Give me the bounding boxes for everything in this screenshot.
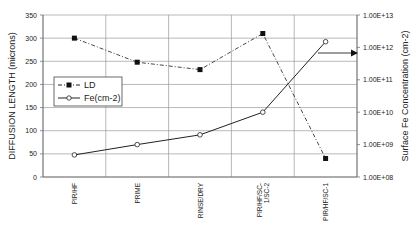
x-category-label-line: RINSE/DRY [197, 182, 204, 218]
y2-tick-label: 1.00E+13 [363, 12, 393, 19]
x-category-label-line: 1/SC-2 [263, 183, 270, 204]
x-category-label: RINSE/DRY [197, 182, 204, 218]
chart: 050100150200250300350 1.00E+081.00E+091.… [0, 0, 419, 234]
y2-tick-label: 1.00E+08 [363, 174, 393, 181]
y-axis-right-ticks: 1.00E+081.00E+091.00E+101.00E+111.00E+12… [357, 12, 393, 181]
y-axis-left-title: DIFFUSION LENGTH (microns) [7, 32, 17, 160]
series-ld-point [260, 31, 265, 36]
y2-tick-label: 1.00E+11 [363, 76, 393, 83]
legend: LD Fe(cm-2) [54, 77, 122, 106]
y-tick-label: 200 [25, 81, 37, 88]
x-category-label: PIR/HF/SC-1/SC-2 [256, 183, 271, 218]
legend-ld-label: LD [84, 80, 96, 90]
legend-fe-label: Fe(cm-2) [84, 93, 121, 103]
y-tick-label: 300 [25, 35, 37, 42]
series-ld-point [72, 36, 77, 41]
x-category-label-line: PIR/HF [71, 183, 78, 204]
x-category-label-line: PRIME [134, 182, 141, 203]
y-tick-label: 100 [25, 127, 37, 134]
series-fe-point [323, 39, 328, 44]
series-fe-point [72, 153, 77, 158]
series-fe-point [261, 110, 266, 115]
series-fe-point [198, 133, 203, 138]
y-tick-label: 0 [33, 174, 37, 181]
y2-tick-label: 1.00E+10 [363, 109, 393, 116]
x-category-label-line: PIR/HF/SC- [256, 183, 263, 217]
x-category-label: PIR/HF/SC-1 [322, 183, 329, 221]
x-category-label: PRIME [134, 182, 141, 203]
y-tick-label: 150 [25, 104, 37, 111]
y-axis-right-title: Surface Fe Concentration (cm-2) [400, 30, 410, 161]
legend-ld-marker [67, 83, 72, 88]
x-axis-category-labels: PIR/HFPRIMERINSE/DRYPIR/HF/SC-1/SC-2PIR/… [71, 182, 329, 221]
y2-tick-label: 1.00E+09 [363, 141, 393, 148]
x-category-label-line: PIR/HF/SC-1 [322, 183, 329, 221]
series-ld-point [198, 67, 203, 72]
series-fe-point [135, 142, 140, 147]
y-tick-label: 350 [25, 12, 37, 19]
y-tick-label: 250 [25, 58, 37, 65]
y2-tick-label: 1.00E+12 [363, 44, 393, 51]
y-axis-left-ticks: 050100150200250300350 [25, 12, 43, 181]
y-tick-label: 50 [29, 150, 37, 157]
series-ld-point [323, 156, 328, 161]
legend-fe-marker [67, 96, 71, 100]
series-ld-point [135, 60, 140, 65]
x-category-label: PIR/HF [71, 183, 78, 204]
